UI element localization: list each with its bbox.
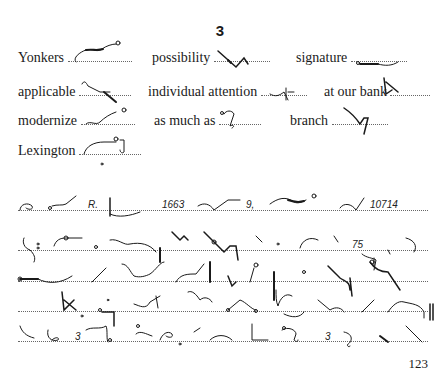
line-1-outlines	[20, 194, 364, 216]
page-number: 123	[409, 356, 429, 372]
vocab-outlines	[75, 41, 398, 165]
line-3-outlines	[18, 260, 400, 300]
line-5-outlines	[20, 324, 422, 347]
line-2-outlines	[23, 232, 415, 270]
line-4-outlines	[62, 290, 433, 326]
